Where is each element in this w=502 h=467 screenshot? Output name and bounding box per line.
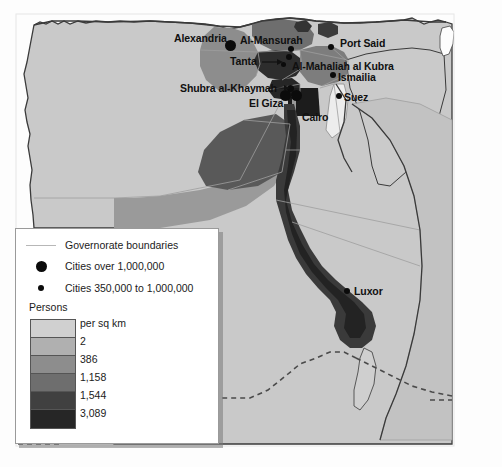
legend-scale-unit: per sq km: [80, 317, 126, 329]
small-city-dot-icon: [26, 285, 56, 291]
legend-break-label-2: 1,158: [80, 371, 106, 383]
legend-row-large-cities: Cities over 1,000,000: [16, 260, 164, 272]
city-label-cairo: Cairo: [302, 112, 328, 123]
density-swatch-2: [31, 356, 75, 374]
density-swatch-1: [31, 338, 75, 356]
city-label-shubra-al-khaymah: Shubra al-Khaymah: [180, 83, 277, 94]
city-dot-cairo[interactable]: [291, 90, 302, 101]
city-dot-port-said[interactable]: [328, 44, 334, 50]
density-swatch-0: [31, 320, 75, 338]
map-figure: Alexandria Al-Mansurah Port Said Tanta A…: [0, 0, 502, 467]
legend-label-boundaries: Governorate boundaries: [65, 239, 178, 251]
density-swatch-5: [31, 410, 75, 428]
legend-label-small-cities: Cities 350,000 to 1,000,000: [65, 282, 193, 294]
top-white-mask: [0, 0, 502, 14]
city-label-tanta: Tanta: [230, 56, 257, 67]
legend-row-small-cities: Cities 350,000 to 1,000,000: [16, 282, 193, 294]
city-label-al-mahaliah-al-kubra: Al-Mahaliah al Kubra: [292, 61, 394, 72]
legend-row-boundaries: Governorate boundaries: [16, 239, 178, 251]
legend-break-label-3: 1,544: [80, 389, 106, 401]
city-dot-luxor[interactable]: [344, 288, 350, 294]
city-dot-al-mansurah[interactable]: [288, 46, 294, 52]
map-legend: Governorate boundaries Cities over 1,000…: [15, 228, 219, 444]
city-dot-ismailia[interactable]: [330, 72, 336, 78]
boundary-line-icon: [26, 245, 56, 246]
legend-break-label-1: 386: [80, 353, 98, 365]
city-label-suez: Suez: [344, 92, 368, 103]
city-label-luxor: Luxor: [354, 286, 383, 297]
right-white-mask: [454, 0, 502, 467]
density-swatch-stack: [30, 319, 76, 429]
bottom-white-mask: [0, 447, 502, 467]
legend-break-label-0: 2: [80, 335, 86, 347]
city-label-port-said: Port Said: [340, 38, 385, 49]
city-label-alexandria: Alexandria: [174, 33, 227, 44]
density-swatch-4: [31, 392, 75, 410]
legend-break-label-4: 3,089: [80, 407, 106, 419]
city-dot-tanta[interactable]: [281, 62, 286, 67]
legend-scale-title: Persons: [29, 301, 68, 313]
city-label-al-mansurah: Al-Mansurah: [240, 35, 303, 46]
city-label-el-giza: El Giza: [249, 98, 283, 109]
city-dot-suez[interactable]: [336, 93, 342, 99]
legend-label-large-cities: Cities over 1,000,000: [65, 260, 164, 272]
city-label-ismailia: Ismailia: [338, 72, 376, 83]
large-city-dot-icon: [26, 261, 56, 272]
density-swatch-3: [31, 374, 75, 392]
